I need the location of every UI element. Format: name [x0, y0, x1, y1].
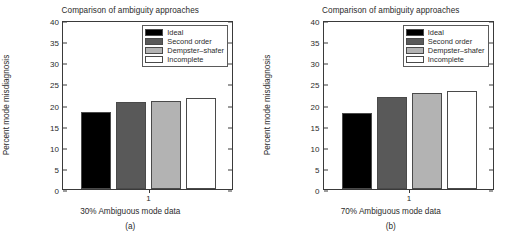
x-axis-tick-label: 1 — [146, 194, 150, 203]
x-axis-label: 30% Ambiguous mode data — [0, 207, 261, 216]
bar-second-order — [116, 102, 146, 189]
y-axis-tick-mark — [489, 106, 493, 107]
legend-item-dempster-shafer: Dempster–shafer — [406, 46, 485, 55]
legend-swatch-ideal — [406, 29, 424, 36]
y-axis-tick-label: 5 — [315, 165, 319, 174]
y-axis-tick-mark — [228, 64, 232, 65]
y-axis-tick-mark — [63, 148, 67, 149]
y-axis-label: Percent mode misdiagnosis — [0, 0, 13, 241]
legend-swatch-second-order — [145, 38, 163, 45]
y-axis-tick-mark — [324, 85, 328, 86]
legend-swatch-incomplete — [406, 56, 424, 63]
y-axis-tick-mark — [63, 106, 67, 107]
y-axis-tick-label: 30 — [50, 60, 59, 69]
x-axis-tick-label: 1 — [407, 194, 411, 203]
legend-label-second-order: Second order — [167, 37, 211, 46]
y-axis-tick-label: 15 — [311, 123, 320, 132]
y-axis-tick-mark — [489, 64, 493, 65]
y-axis-tick-mark — [228, 169, 232, 170]
plot-area: 1 Ideal Second order Dempster–shafer Inc… — [62, 21, 233, 190]
y-axis-tick-mark — [324, 22, 328, 23]
y-axis-tick-label: 0 — [55, 187, 59, 196]
plot-area: 1 Ideal Second order Dempster–shafer Inc… — [323, 21, 494, 190]
legend-item-incomplete: Incomplete — [145, 55, 224, 64]
legend: Ideal Second order Dempster–shafer Incom… — [142, 25, 228, 67]
y-axis-tick-mark — [228, 106, 232, 107]
legend-label-incomplete: Incomplete — [428, 55, 464, 64]
y-axis-tick-label: 35 — [311, 39, 320, 48]
bar-second-order — [377, 97, 407, 189]
y-axis-tick-label: 35 — [50, 39, 59, 48]
legend-item-ideal: Ideal — [145, 28, 224, 37]
y-axis-tick-mark — [489, 85, 493, 86]
y-axis-tick-label: 10 — [311, 144, 320, 153]
legend-swatch-dempster-shafer — [406, 47, 424, 54]
y-axis-tick-mark — [63, 22, 67, 23]
y-axis-tick-mark — [63, 127, 67, 128]
chart-title: Comparison of ambiguity approaches — [261, 6, 521, 15]
y-axis-tick-mark — [489, 127, 493, 128]
bar-dempster-shafer — [412, 93, 442, 189]
y-axis-tick-mark — [324, 106, 328, 107]
y-axis-label-text: Percent mode misdiagnosis — [2, 55, 11, 156]
y-axis-tick-mark — [324, 191, 328, 192]
y-axis-tick-label: 25 — [50, 81, 59, 90]
bar-ideal — [342, 113, 372, 189]
y-axis-tick-mark — [489, 169, 493, 170]
legend-swatch-ideal — [145, 29, 163, 36]
y-axis-tick-label: 15 — [50, 123, 59, 132]
y-axis-tick-label: 10 — [50, 144, 59, 153]
y-axis-tick-mark — [228, 191, 232, 192]
y-axis-tick-mark — [228, 127, 232, 128]
y-axis-tick-mark — [63, 169, 67, 170]
legend: Ideal Second order Dempster–shafer Incom… — [403, 25, 489, 67]
legend-swatch-second-order — [406, 38, 424, 45]
y-axis-tick-mark — [324, 169, 328, 170]
chart-title: Comparison of ambiguity approaches — [0, 6, 261, 15]
legend-item-incomplete: Incomplete — [406, 55, 485, 64]
figure-two-panel-bar-charts: Comparison of ambiguity approaches Perce… — [0, 0, 521, 241]
bar-ideal — [81, 112, 111, 189]
legend-swatch-incomplete — [145, 56, 163, 63]
y-axis-tick-label: 30 — [311, 60, 320, 69]
bar-incomplete — [186, 98, 216, 189]
y-axis-tick-mark — [228, 22, 232, 23]
y-axis-tick-label: 0 — [315, 187, 319, 196]
y-axis-tick-label: 5 — [55, 165, 59, 174]
y-axis-tick-mark — [63, 191, 67, 192]
y-axis-tick-label: 20 — [311, 102, 320, 111]
x-axis-tick-mark — [149, 189, 150, 193]
legend-item-ideal: Ideal — [406, 28, 485, 37]
y-axis-tick-mark — [228, 85, 232, 86]
bar-dempster-shafer — [151, 101, 181, 189]
y-axis-tick-mark — [489, 22, 493, 23]
y-axis-tick-mark — [324, 148, 328, 149]
legend-label-ideal: Ideal — [428, 28, 444, 37]
y-axis-tick-label: 40 — [311, 18, 320, 27]
legend-label-incomplete: Incomplete — [167, 55, 203, 64]
legend-swatch-dempster-shafer — [145, 47, 163, 54]
y-axis-label-text: Percent mode misdiagnosis — [262, 55, 271, 156]
panel-b: Comparison of ambiguity approaches Perce… — [261, 0, 521, 241]
legend-item-second-order: Second order — [145, 37, 224, 46]
legend-label-dempster-shafer: Dempster–shafer — [428, 46, 485, 55]
y-axis-tick-mark — [228, 148, 232, 149]
legend-label-dempster-shafer: Dempster–shafer — [167, 46, 224, 55]
panel-a: Comparison of ambiguity approaches Perce… — [0, 0, 261, 241]
y-axis-tick-mark — [324, 43, 328, 44]
y-axis-tick-mark — [489, 148, 493, 149]
y-axis-tick-label: 20 — [50, 102, 59, 111]
y-axis-tick-mark — [228, 43, 232, 44]
y-axis-tick-mark — [63, 64, 67, 65]
panel-caption: (a) — [0, 222, 261, 231]
legend-label-second-order: Second order — [428, 37, 472, 46]
y-axis-tick-mark — [63, 85, 67, 86]
y-axis-tick-label: 40 — [50, 18, 59, 27]
legend-label-ideal: Ideal — [167, 28, 183, 37]
y-axis-tick-mark — [324, 64, 328, 65]
y-axis-tick-mark — [63, 43, 67, 44]
y-axis-tick-mark — [489, 43, 493, 44]
y-axis-tick-mark — [324, 127, 328, 128]
bar-incomplete — [447, 91, 477, 189]
y-axis-label: Percent mode misdiagnosis — [260, 0, 274, 241]
